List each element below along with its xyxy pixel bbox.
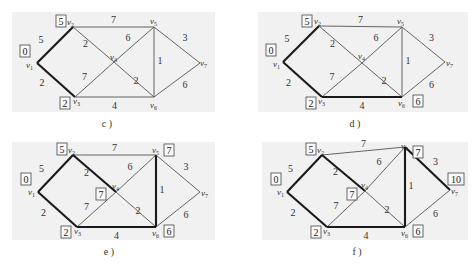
edge-weight: 7 bbox=[111, 14, 116, 25]
edge-weight: 6 bbox=[374, 32, 379, 43]
edge-weight: 6 bbox=[433, 208, 438, 219]
panel-d: 52722764136v1v2v3v4v5v6v70526d ) bbox=[258, 12, 468, 130]
svg-text:5: 5 bbox=[309, 144, 314, 155]
edge-weight: 2 bbox=[40, 77, 45, 88]
svg-text:5: 5 bbox=[59, 16, 64, 27]
distance-box-v2: 5 bbox=[302, 15, 312, 27]
distance-box-v6: 6 bbox=[413, 95, 423, 107]
edge-weight: 6 bbox=[184, 209, 189, 220]
panel-caption: c ) bbox=[102, 118, 112, 130]
panel-caption: d ) bbox=[350, 118, 361, 130]
svg-text:7: 7 bbox=[350, 189, 355, 200]
edge-weight: 5 bbox=[285, 33, 290, 44]
edge-weight: 2 bbox=[134, 75, 139, 86]
edge-weight: 2 bbox=[382, 75, 387, 86]
svg-text:2: 2 bbox=[63, 98, 68, 109]
edge-weight: 4 bbox=[360, 100, 365, 111]
edge-weight: 5 bbox=[39, 34, 44, 45]
distance-box-v2: 5 bbox=[56, 15, 66, 27]
edge-weight: 3 bbox=[184, 161, 189, 172]
edge-weight: 4 bbox=[364, 230, 369, 241]
svg-text:10: 10 bbox=[451, 174, 461, 185]
edge-weight: 6 bbox=[377, 156, 382, 167]
edge-weight: 2 bbox=[286, 77, 291, 88]
distance-box-v5: 7 bbox=[164, 144, 174, 156]
svg-text:2: 2 bbox=[309, 98, 314, 109]
svg-text:0: 0 bbox=[23, 46, 28, 57]
dijkstra-diagram: 52722764136v1v2v3v4v5v6v7052c )527227641… bbox=[0, 0, 475, 268]
edge-weight: 1 bbox=[409, 180, 414, 191]
distance-box-v5: 7 bbox=[413, 146, 423, 158]
svg-text:6: 6 bbox=[416, 226, 421, 237]
svg-text:2: 2 bbox=[314, 227, 319, 238]
panel-f: 52722764136v1v2v3v4v5v6v705277610f ) bbox=[262, 138, 468, 258]
edge-weight: 3 bbox=[429, 32, 434, 43]
panel-caption: f ) bbox=[352, 246, 361, 258]
edge-weight: 6 bbox=[183, 79, 188, 90]
edge-weight: 7 bbox=[84, 201, 89, 212]
edge-weight: 2 bbox=[385, 204, 390, 215]
edge-weight: 7 bbox=[82, 71, 87, 82]
edge-weight: 2 bbox=[136, 205, 141, 216]
distance-box-v4: 7 bbox=[347, 188, 357, 200]
edge-weight: 2 bbox=[84, 167, 89, 178]
panel-c: 52722764136v1v2v3v4v5v6v7052c ) bbox=[12, 12, 215, 130]
svg-text:2: 2 bbox=[64, 227, 69, 238]
distance-box-v3: 2 bbox=[60, 97, 70, 109]
edge-weight: 4 bbox=[114, 230, 119, 241]
distance-box-v3: 2 bbox=[306, 97, 316, 109]
distance-box-v6: 6 bbox=[413, 225, 423, 237]
svg-text:0: 0 bbox=[24, 174, 29, 185]
distance-box-v1: 0 bbox=[20, 45, 30, 57]
svg-text:7: 7 bbox=[416, 147, 421, 158]
edge-weight: 4 bbox=[112, 100, 117, 111]
distance-box-v7: 10 bbox=[448, 173, 464, 185]
edge-weight: 7 bbox=[330, 71, 335, 82]
edge-weight: 2 bbox=[291, 207, 296, 218]
svg-text:5: 5 bbox=[60, 144, 65, 155]
svg-text:5: 5 bbox=[305, 16, 310, 27]
edge-weight: 2 bbox=[330, 38, 335, 49]
edge-weight: 3 bbox=[433, 156, 438, 167]
svg-text:6: 6 bbox=[167, 226, 172, 237]
distance-box-v3: 2 bbox=[311, 226, 321, 238]
edge-weight: 2 bbox=[41, 207, 46, 218]
edge-weight: 7 bbox=[358, 14, 363, 25]
distance-box-v6: 6 bbox=[164, 225, 174, 237]
distance-box-v1: 0 bbox=[21, 173, 31, 185]
edge-weight: 3 bbox=[183, 32, 188, 43]
distance-box-v1: 0 bbox=[266, 44, 276, 56]
svg-text:7: 7 bbox=[99, 189, 104, 200]
edge-weight: 7 bbox=[361, 138, 366, 149]
edge-weight: 1 bbox=[160, 184, 165, 195]
edge-weight: 1 bbox=[406, 55, 411, 66]
svg-text:7: 7 bbox=[167, 145, 172, 156]
svg-text:6: 6 bbox=[416, 96, 421, 107]
edge-weight: 2 bbox=[83, 38, 88, 49]
panel-e: 52722764136v1v2v3v4v5v6v7052776e ) bbox=[12, 142, 215, 258]
distance-box-v4: 7 bbox=[96, 188, 106, 200]
edge-weight: 6 bbox=[128, 161, 133, 172]
panel-caption: e ) bbox=[104, 246, 114, 258]
distance-box-v1: 0 bbox=[271, 173, 281, 185]
svg-text:0: 0 bbox=[274, 174, 279, 185]
distance-box-v2: 5 bbox=[306, 143, 316, 155]
distance-box-v3: 2 bbox=[61, 226, 71, 238]
distance-box-v2: 5 bbox=[57, 143, 67, 155]
svg-text:0: 0 bbox=[269, 45, 274, 56]
edge-weight: 6 bbox=[126, 32, 131, 43]
edge-weight: 7 bbox=[112, 142, 117, 153]
edge-weight: 1 bbox=[158, 55, 163, 66]
edge-weight: 2 bbox=[333, 166, 338, 177]
edge-weight: 7 bbox=[334, 200, 339, 211]
edge-weight: 5 bbox=[39, 163, 44, 174]
edge-weight: 5 bbox=[288, 163, 293, 174]
edge-weight: 6 bbox=[429, 79, 434, 90]
